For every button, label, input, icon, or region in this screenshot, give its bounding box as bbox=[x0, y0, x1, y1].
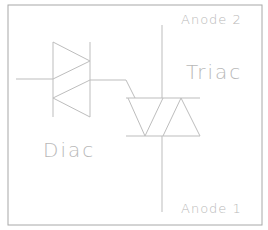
label-triac: Triac bbox=[186, 60, 242, 84]
label-anode-1: Anode 1 bbox=[181, 201, 242, 216]
diagram-border bbox=[8, 5, 262, 225]
label-diac: Diac bbox=[43, 138, 95, 162]
triac-symbol bbox=[126, 25, 200, 212]
label-anode-2: Anode 2 bbox=[181, 12, 242, 27]
diagram-canvas: Anode 2 Triac Diac Anode 1 bbox=[0, 0, 268, 230]
diac-symbol bbox=[16, 42, 135, 117]
